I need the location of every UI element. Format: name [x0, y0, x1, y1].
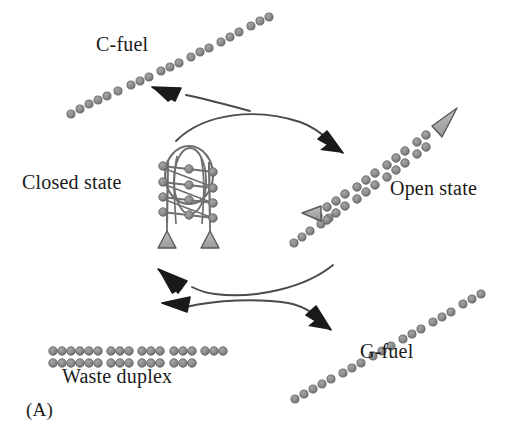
label-g-fuel: G-fuel — [360, 340, 413, 363]
c-fuel-strand — [67, 13, 273, 118]
label-waste-duplex: Waste duplex — [62, 365, 172, 388]
arrow-gfuel-produced — [162, 297, 331, 330]
label-c-fuel: C-fuel — [96, 33, 148, 56]
closed-state-complex — [158, 146, 219, 248]
dna-nanomachine-figure: C-fuel Closed state Open state G-fuel Wa… — [0, 0, 510, 448]
panel-label: (A) — [26, 399, 53, 421]
open-state-triangle-lower — [302, 206, 321, 221]
label-open-state: Open state — [390, 177, 477, 200]
arrow-cfuel-consumed — [152, 87, 250, 111]
label-closed-state: Closed state — [22, 171, 122, 194]
arrow-closed-to-open — [176, 114, 343, 153]
arrow-open-to-closed — [158, 265, 333, 295]
closed-state-triangle-left — [158, 231, 176, 248]
open-state-triangle-upper — [432, 108, 457, 137]
closed-state-triangle-right — [201, 231, 219, 248]
